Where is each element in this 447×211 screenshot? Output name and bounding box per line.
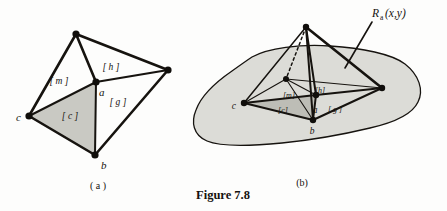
panel-a-label-m: [ m ] bbox=[49, 76, 68, 86]
panel-a-vertex-top bbox=[72, 30, 79, 37]
panel-b-label-m: [m] bbox=[283, 91, 295, 100]
panel-a-vertex-label-a: a bbox=[99, 86, 105, 98]
panel-b-caption: (b) bbox=[296, 177, 308, 189]
figure-7-8: [ m ] [ h ] [ c ] [ g ] a c b ( a ) bbox=[0, 0, 447, 211]
panel-b-annotation-subscript: a bbox=[380, 13, 384, 22]
panel-b-vertex-right bbox=[379, 85, 385, 91]
panel-b-vertex-label-b: b bbox=[310, 126, 315, 136]
panel-a-vertex-label-c: c bbox=[16, 111, 21, 123]
panel-a-vertex-b bbox=[91, 151, 98, 158]
panel-b-annotation-args: (x,y) bbox=[385, 7, 406, 20]
panel-a-edge-a-b bbox=[95, 82, 96, 155]
panel-a-edge-b-right bbox=[95, 70, 168, 155]
panel-a-vertex-a bbox=[92, 78, 99, 85]
panel-a-vertex-right bbox=[164, 66, 171, 73]
panel-a-label-c-face: [ c ] bbox=[62, 111, 79, 121]
panel-a-vertex-c bbox=[25, 112, 32, 119]
panel-a-label-h: [ h ] bbox=[103, 62, 120, 72]
panel-b-label-h: [h] bbox=[315, 86, 325, 95]
panel-b-label-c-face: [c] bbox=[278, 106, 288, 115]
panel-b-annotation: R a (x,y) bbox=[371, 7, 406, 22]
panel-b-vertex-back bbox=[283, 76, 289, 82]
panel-a-caption: ( a ) bbox=[90, 180, 106, 192]
panel-b-vertex-apex bbox=[303, 24, 309, 30]
panel-b-vertex-b bbox=[310, 117, 316, 123]
panel-a-vertex-label-b: b bbox=[101, 159, 107, 171]
panel-a-label-g: [ g ] bbox=[110, 97, 127, 107]
panel-a-group: [ m ] [ h ] [ c ] [ g ] a c b ( a ) bbox=[16, 30, 171, 192]
panel-b-vertex-c bbox=[241, 100, 247, 106]
figure-canvas: [ m ] [ h ] [ c ] [ g ] a c b ( a ) bbox=[0, 0, 447, 211]
panel-b-annotation-base: R bbox=[371, 7, 379, 19]
panel-b-label-g: [ g ] bbox=[328, 105, 342, 114]
figure-caption: Figure 7.8 bbox=[196, 188, 250, 202]
panel-b-group: R a (x,y) [m] [h] [c] [ g ] a c b (b) bbox=[194, 7, 421, 189]
panel-b-vertex-label-a: a bbox=[313, 105, 318, 115]
